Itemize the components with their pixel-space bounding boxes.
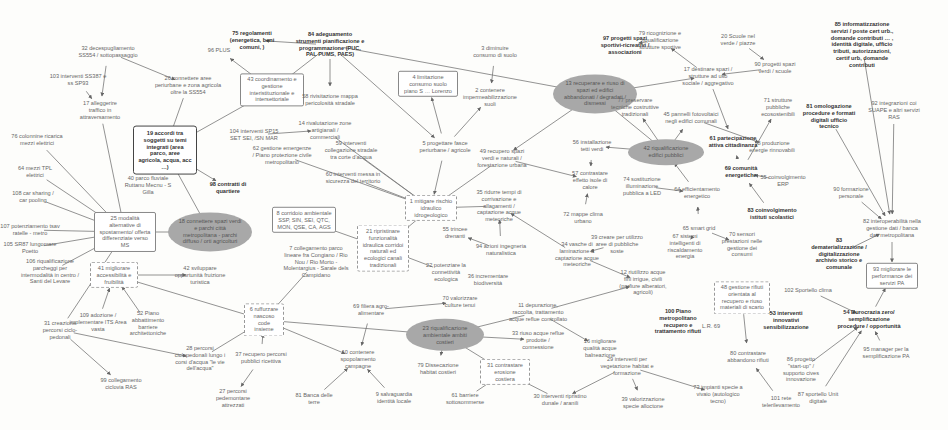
concept-node-n42b: 42 riqualificazione edifici pubblici [628,139,704,165]
concept-node-n85: 85 informatizzazione servizi / poste cer… [829,21,895,69]
concept-node-n39b: 39 valorizzazione specie alloctone [616,396,670,410]
edge-arrow [737,156,738,159]
concept-node-n82: 82 interoperabilità nella gestione dati … [862,218,922,238]
concept-node-n23: 23 riqualificazione ambientale ambiti co… [406,319,484,351]
edge-arrow [492,66,494,83]
edge-arrow [122,287,140,313]
concept-node-n27: 27 percorsi pedemontane attrezzati [212,388,254,408]
concept-node-n4: 4 limitazione consumo suolo piano S … Lo… [398,71,458,97]
concept-node-n17: 17 alleggerire traffico in attraversamen… [74,100,126,120]
concept-node-n90: 90 progetti spazi verdi / scuole [753,61,797,75]
edge-arrow [454,107,480,136]
concept-node-n101: 101 rete telerilevamento [760,395,802,409]
concept-node-n64: 64 mezzi TPL elettrici [13,165,57,179]
edge-arrow [434,161,442,195]
concept-node-n33: 33 riuso acque reflue prodotte / conness… [510,330,566,350]
concept-node-n108: 108 car sharing / car pooling [9,190,57,204]
concept-node-n8: 8 corridoio ambientale SSP, SIN, SEI, QT… [272,207,336,233]
concept-node-n78: 78 produzione energie rinnovabili [746,140,798,154]
edge-arrow [876,288,886,306]
concept-node-n12: 12 riutilizzo acque fini irrigue, civili… [617,269,669,296]
concept-node-n67: 67 sistemi intelligenti di riscaldamento… [662,233,708,260]
concept-node-n58: 58 rivisitazione mappa pericolosità stra… [302,93,358,107]
concept-node-n49: 49 recupero spazi verdi e naturali / for… [473,148,531,168]
concept-node-n2: 2 contenere impermeabilizzazione suoli [461,87,519,107]
concept-node-n90b: 90 formazione personale [828,186,874,200]
concept-node-n79: 79 Dissecazione habitat costieri [415,362,461,376]
concept-node-n31: 31 creazione percorsi ciclo-pedonali [37,320,83,340]
edge-arrow [324,368,347,389]
concept-node-n52: 52 Piano abbattimento barriere architett… [125,310,171,337]
concept-node-n20: 20 Scuole nel verde / piazze [714,33,762,47]
concept-node-n54: 54 Burocrazia zero/ semplificazione proc… [837,309,901,329]
concept-node-n19: 19 accordi tra soggetti su temi integrat… [133,126,197,175]
concept-node-n3: 3 diminuire consumo di suolo [471,45,519,59]
concept-node-n62: 62 gestione emergenze / Piano protezione… [252,145,312,165]
concept-node-n70: 70 valorizzare culture tenui [436,295,484,309]
concept-node-n55: 55 trincee drenanti [432,226,478,240]
concept-node-n71: 71 strutture pubbliche ecosostenibili [753,97,803,117]
edge-arrow [70,339,110,374]
concept-node-n61: 61 barriere sottosommerse [441,392,489,406]
concept-node-n6: 6 ruffurzare nascoso code insieme [244,303,284,336]
concept-node-n59: 59 interventi collegazione stradale tra … [321,140,381,160]
concept-node-n18: 18 connettere spazi verdi e parchi città… [168,212,252,251]
concept-node-n26: 26 connettere aree periurbane e zona agr… [153,75,223,95]
concept-node-n28: 28 percorsi ciclopedonali lungo i corsi … [172,345,228,372]
concept-node-n81b: 81 omologazione procedure e formati digi… [802,103,856,130]
concept-node-n39: 39 creare per utilizzo aree di pubbliche… [591,234,643,254]
concept-node-n76: 76 colonnine ricarica mezzi elettrici [11,133,63,147]
edge-arrow [892,124,894,214]
concept-node-n98: 98 contratti di quartiere [204,181,252,195]
edge-arrow [875,332,879,341]
concept-node-n40: 40 parco fluviale Ruttanu Mecnu - S Gill… [122,175,174,195]
concept-node-n69: 69 filiera agro-alimentare [347,303,395,317]
concept-node-n55b: 55 coinvolgimento ERP [759,174,807,188]
concept-node-n11: 11 depurazione, raccolta, trattamento ac… [508,302,568,322]
concept-node-n21: 21 ripristinare funzionalità idraulica c… [357,225,409,272]
concept-node-n37a: 37 recupero percorsi pubblici ricettiva [230,351,292,365]
edge-arrow [586,194,588,204]
concept-node-n80: 80 contrastare abbandono rifiuti [722,350,774,364]
concept-node-n60: 60 interventi messa in sicurezza del ter… [323,171,383,185]
concept-node-n42: 42 sviluppare opportunità fruizione turi… [174,265,226,285]
edge-arrow [671,48,697,67]
concept-node-n93: 93 migliorare le performance dei servizi… [866,263,918,289]
concept-node-n57: 57 contrastare effetto isole di calore [568,170,612,190]
edge-arrow [367,369,384,387]
edge-arrow [103,124,122,219]
edge-arrow [749,48,764,59]
concept-node-n53: 53 interventi innovativi sensibilizzazio… [760,310,812,330]
concept-node-n43: 43 coordinamento e gestione interistituz… [240,73,304,106]
concept-node-n30: 30 interventi ripristino dunale / aranil… [532,393,588,407]
concept-node-n70b: 70 sensori prestazioni nelle gestione de… [716,231,768,258]
concept-node-n104: 104 interventi SP15 SET SEI, /SN MAR [224,128,284,142]
concept-node-n65: 65 smart grid [680,225,718,232]
concept-node-n5: 5 progettare fasce periurbane / agricole [417,140,473,154]
concept-node-n31b: 31 contrastare erosione costiera [480,359,530,385]
edge-arrow [86,91,91,98]
concept-node-n14: 14 rivalutazione zone artigianali / comm… [298,120,352,140]
concept-node-n92: 92 integrazioni coi SUAPE e altri serviz… [868,100,920,120]
edge-arrow [432,98,442,134]
concept-node-n77: 77 preservare tecniche costruttive tradi… [607,97,663,117]
concept-map-canvas: 32 decespugliamento SS554 / sottopassagg… [0,0,948,430]
concept-node-n75: 75 regolamenti (energetica, beni comuni,… [223,30,281,50]
edge-arrow [756,368,772,390]
concept-node-n41: 41 migliorare accessibilità e fruibilità [90,262,138,288]
concept-node-n73: 73 impianti specie a vivaio (autologico … [690,384,746,404]
concept-node-n17b: 17 destinare spazi / strutture ad uso so… [680,66,736,86]
edge-arrow [743,312,746,343]
concept-node-n102: 102 Sportello clima [782,287,834,294]
edge-arrow [862,202,882,219]
concept-node-n56: 56 installazione tetti verdi [569,139,615,153]
concept-node-n105: 105 SR87 lungomare Poetto [0,241,60,255]
concept-node-n74: 74 sostituzione illuminazione pubblica a… [615,176,669,196]
edge-arrow [344,48,581,92]
concept-node-n81: 81 Banca delle terre [289,392,339,406]
edge-arrow [362,324,368,346]
concept-node-n83: 83 coinvolgimento istituti scolastici [743,207,801,221]
concept-node-n7: 7 collegamento parco lineare fra Congian… [283,245,349,279]
concept-node-n25: 25 modalità alternative di spostamento/ … [94,212,156,252]
edge-arrow [633,379,638,390]
